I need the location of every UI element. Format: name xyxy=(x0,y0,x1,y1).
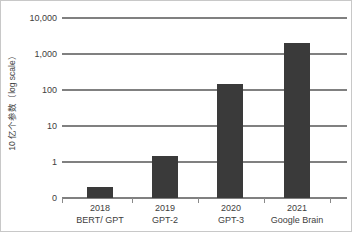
chart-figure: 10 亿个参数（log scale） 10,000 1,000 100 10 1… xyxy=(0,0,352,232)
y-axis-title-container: 10 亿个参数（log scale） xyxy=(1,1,21,201)
x-label-2020: 2020 GPT-3 xyxy=(218,202,244,226)
x-label-2018-year: 2018 xyxy=(76,202,123,214)
x-label-2019-year: 2019 xyxy=(152,202,178,214)
plot-area xyxy=(62,1,347,201)
y-axis-tick-labels: 10,000 1,000 100 10 1 0 xyxy=(19,1,61,201)
y-axis-title: 10 亿个参数（log scale） xyxy=(5,51,17,150)
x-label-2020-year: 2020 xyxy=(218,202,244,214)
y-tick-label-1: 1 xyxy=(52,157,57,167)
bar-2019[interactable] xyxy=(152,156,178,198)
bar-2020[interactable] xyxy=(217,84,243,198)
y-tick-label-0: 0 xyxy=(52,193,57,203)
bar-2021[interactable] xyxy=(284,43,310,198)
x-label-2021-year: 2021 xyxy=(271,202,324,214)
x-label-2018: 2018 BERT/ GPT xyxy=(76,202,123,226)
x-label-2020-model: GPT-3 xyxy=(218,214,244,226)
y-tick-label-1000: 1,000 xyxy=(34,49,57,59)
x-label-2021: 2021 Google Brain xyxy=(271,202,324,226)
y-tick-label-10: 10 xyxy=(47,121,57,131)
y-tick-label-100: 100 xyxy=(42,85,57,95)
x-label-2019-model: GPT-2 xyxy=(152,214,178,226)
x-label-2019: 2019 GPT-2 xyxy=(152,202,178,226)
y-tick-label-10000: 10,000 xyxy=(29,13,57,23)
gridline-10000 xyxy=(62,17,347,19)
x-axis-labels: 2018 BERT/ GPT 2019 GPT-2 2020 GPT-3 202… xyxy=(62,202,347,232)
x-label-2018-model: BERT/ GPT xyxy=(76,214,123,226)
x-label-2021-model: Google Brain xyxy=(271,214,324,226)
bar-2018[interactable] xyxy=(87,187,113,198)
